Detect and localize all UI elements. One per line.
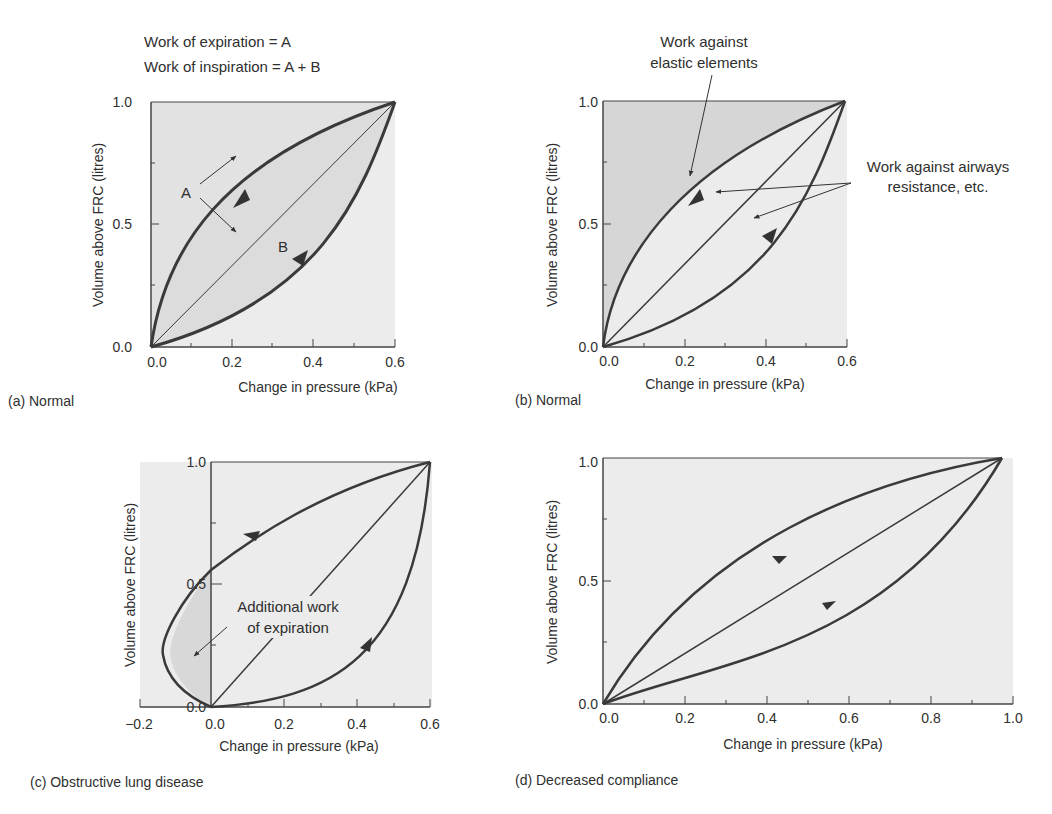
x-axis-label: Change in pressure (kPa) xyxy=(219,738,379,754)
x-tick-label: 1.0 xyxy=(1003,710,1023,726)
label-b: B xyxy=(278,238,288,255)
plot-background xyxy=(603,458,1013,704)
x-axis-label: Change in pressure (kPa) xyxy=(723,736,883,752)
y-tick-label: 0.5 xyxy=(187,576,207,592)
x-tick-label: 0.0 xyxy=(147,354,167,370)
panel-a: Work of expiration = A Work of inspirati… xyxy=(8,33,405,409)
y-tick-label: 1.0 xyxy=(579,454,599,470)
annotation-line1: Additional work xyxy=(237,598,339,615)
y-axis-label: Volume above FRC (litres) xyxy=(544,500,560,664)
y-tick-label: 0.0 xyxy=(187,699,207,715)
y-tick-label: 0.5 xyxy=(113,216,133,232)
x-tick-label: 0.2 xyxy=(675,353,695,369)
panel-caption: (b) Normal xyxy=(515,392,581,408)
x-tick-label: 0.6 xyxy=(839,710,859,726)
x-tick-label: 0.8 xyxy=(921,710,941,726)
y-tick-label: 0.5 xyxy=(579,573,599,589)
panel-b: Work against elastic elements Work again… xyxy=(515,33,1009,408)
annotation-elastic-line2: elastic elements xyxy=(650,54,758,71)
x-tick-label: 0.4 xyxy=(303,354,323,370)
y-tick-label: 1.0 xyxy=(187,454,207,470)
y-tick-label: 1.0 xyxy=(579,94,599,110)
x-axis-label: Change in pressure (kPa) xyxy=(645,376,805,392)
x-tick-label: 0.4 xyxy=(757,710,777,726)
panel-d: 0.0 0.5 1.0 0.0 0.2 0.4 0.6 0.8 1.0 Chan… xyxy=(515,454,1023,788)
x-tick-label: 0.4 xyxy=(756,353,776,369)
x-tick-label: 0.2 xyxy=(274,716,294,732)
y-tick-label: 0.0 xyxy=(113,339,133,355)
x-tick-label: 0.2 xyxy=(675,710,695,726)
panel-caption: (d) Decreased compliance xyxy=(515,772,679,788)
y-axis-label: Volume above FRC (litres) xyxy=(90,143,106,307)
annotation-resistance-line2: resistance, etc. xyxy=(888,178,989,195)
x-tick-label: 0.6 xyxy=(420,716,440,732)
annotation-resistance-line1: Work against airways xyxy=(867,158,1009,175)
x-tick-label: 0.4 xyxy=(347,716,367,732)
label-a: A xyxy=(181,184,191,201)
figure-canvas: Work of expiration = A Work of inspirati… xyxy=(0,0,1052,814)
x-tick-label: 0.0 xyxy=(599,710,619,726)
annotation-inspiration: Work of inspiration = A + B xyxy=(144,58,320,75)
y-tick-label: 0.0 xyxy=(579,696,599,712)
annotation-expiration: Work of expiration = A xyxy=(144,33,291,50)
panel-caption: (a) Normal xyxy=(8,393,74,409)
x-tick-label: −0.2 xyxy=(125,716,153,732)
annotation-elastic-line1: Work against xyxy=(660,33,748,50)
x-tick-label: 0.2 xyxy=(222,354,242,370)
panel-c: Additional work of expiration 0.0 0.5 1.… xyxy=(30,454,440,790)
panel-caption: (c) Obstructive lung disease xyxy=(30,774,204,790)
y-tick-label: 0.0 xyxy=(579,339,599,355)
y-tick-label: 0.5 xyxy=(579,216,599,232)
x-tick-label: 0.6 xyxy=(385,354,405,370)
x-tick-label: 0.0 xyxy=(205,716,225,732)
x-tick-label: 0.0 xyxy=(599,353,619,369)
y-axis-label: Volume above FRC (litres) xyxy=(544,143,560,307)
y-axis-label: Volume above FRC (litres) xyxy=(122,503,138,667)
x-tick-label: 0.6 xyxy=(837,353,857,369)
y-tick-label: 1.0 xyxy=(113,94,133,110)
annotation-line2: of expiration xyxy=(247,619,329,636)
x-axis-label: Change in pressure (kPa) xyxy=(238,379,398,395)
